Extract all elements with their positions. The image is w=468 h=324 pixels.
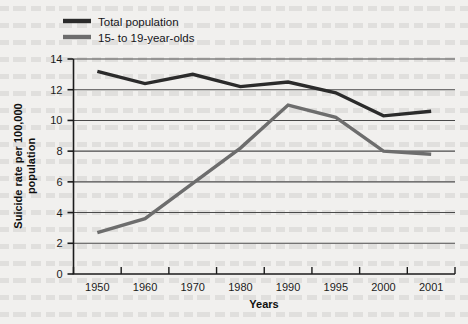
x-tick-label-1980: 1980 [228, 281, 252, 293]
x-axis-title: Years [249, 298, 278, 310]
y-axis-title-line-1: Suicide rate per 100,000 [12, 103, 24, 228]
y-axis-title-line-2: population [25, 138, 37, 194]
x-tick-label-2001: 2001 [419, 281, 443, 293]
y-tick-label-12: 12 [50, 84, 62, 96]
x-tick-label-1960: 1960 [133, 281, 157, 293]
y-tick-label-2: 2 [56, 237, 62, 249]
x-tick-marks-group [74, 267, 456, 274]
legend-label-1: 15- to 19-year-olds [98, 32, 195, 44]
x-tick-labels-group: 19501960197019801990199520002001 [85, 281, 443, 293]
x-tick-label-1970: 1970 [180, 281, 204, 293]
y-tick-label-6: 6 [56, 176, 62, 188]
y-tick-label-0: 0 [56, 268, 62, 280]
x-tick-label-1950: 1950 [85, 281, 109, 293]
y-tick-labels-group: 02468101214 [50, 53, 62, 280]
y-tick-marks-group [68, 59, 74, 274]
y-tick-label-10: 10 [50, 114, 62, 126]
y-tick-label-14: 14 [50, 53, 62, 65]
series-line-total-population [97, 71, 431, 116]
x-tick-label-2000: 2000 [371, 281, 395, 293]
legend-label-0: Total population [98, 16, 179, 28]
x-tick-label-1995: 1995 [324, 281, 348, 293]
line-chart: 02468101214 1950196019701980199019952000… [0, 0, 468, 324]
x-tick-label-1990: 1990 [276, 281, 300, 293]
series-line-youth-15-19 [97, 105, 431, 232]
y-tick-label-8: 8 [56, 145, 62, 157]
y-axis-title: Suicide rate per 100,000 population [12, 103, 37, 228]
data-series-group [97, 71, 431, 232]
chart-container: 02468101214 1950196019701980199019952000… [0, 0, 468, 324]
legend: Total population15- to 19-year-olds [63, 16, 195, 44]
y-tick-label-4: 4 [56, 207, 62, 219]
